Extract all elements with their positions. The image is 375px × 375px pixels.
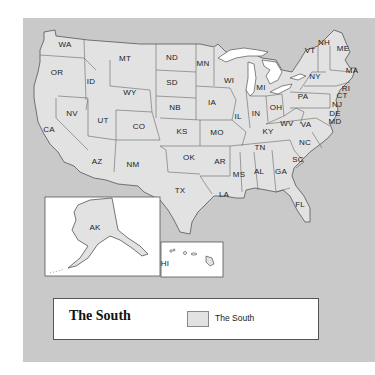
- state-label-nc: NC: [299, 138, 311, 147]
- state-label-vt: VT: [305, 46, 316, 55]
- state-label-sc: SC: [292, 155, 304, 164]
- state-label-wv: WV: [280, 119, 293, 128]
- state-label-ny: NY: [309, 72, 321, 81]
- state-label-va: VA: [301, 120, 311, 129]
- state-label-ks: KS: [176, 127, 187, 136]
- state-label-mn: MN: [197, 59, 210, 68]
- state-label-mo: MO: [210, 128, 223, 137]
- state-label-ms: MS: [233, 170, 245, 179]
- state-label-mi: MI: [256, 83, 265, 92]
- state-label-id: ID: [87, 77, 95, 86]
- state-label-me: ME: [337, 44, 349, 53]
- state-label-hi: HI: [161, 259, 169, 268]
- state-label-tx: TX: [175, 186, 186, 195]
- state-label-al: AL: [254, 167, 264, 176]
- state-label-ma: MA: [346, 66, 358, 75]
- legend-title: The South: [69, 308, 131, 324]
- state-label-nm: NM: [127, 160, 140, 169]
- state-label-ar: AR: [214, 157, 226, 166]
- state-label-ia: IA: [208, 98, 216, 107]
- state-label-ky: KY: [262, 127, 273, 136]
- state-label-wy: WY: [123, 88, 136, 97]
- state-label-la: LA: [219, 190, 229, 199]
- state-label-sd: SD: [166, 78, 178, 87]
- hawaii-inset-frame: [161, 242, 223, 277]
- state-label-fl: FL: [295, 200, 305, 209]
- state-label-tn: TN: [254, 143, 265, 152]
- legend-swatch: [187, 311, 209, 327]
- state-label-nh: NH: [318, 38, 330, 47]
- state-label-az: AZ: [92, 157, 103, 166]
- state-label-nd: ND: [166, 53, 178, 62]
- state-label-in: IN: [252, 109, 260, 118]
- state-label-mt: MT: [119, 54, 131, 63]
- state-label-wa: WA: [59, 40, 72, 49]
- state-label-md: MD: [329, 117, 342, 126]
- state-label-co: CO: [133, 122, 145, 131]
- state-label-oh: OH: [270, 103, 282, 112]
- state-label-or: OR: [51, 68, 63, 77]
- state-label-ut: UT: [97, 116, 108, 125]
- state-label-nb: NB: [169, 103, 181, 112]
- state-label-ak: AK: [89, 223, 100, 232]
- state-label-ok: OK: [183, 153, 195, 162]
- legend-item-label: The South: [215, 313, 254, 323]
- state-label-pa: PA: [298, 92, 308, 101]
- state-label-wi: WI: [224, 76, 234, 85]
- state-label-nv: NV: [66, 109, 78, 118]
- state-label-ca: CA: [43, 125, 55, 134]
- state-label-il: IL: [234, 112, 241, 121]
- state-label-ga: GA: [275, 167, 287, 176]
- state-label-ct: CT: [336, 91, 347, 100]
- legend: The South The South: [53, 298, 319, 340]
- state-label-nj: NJ: [332, 100, 342, 109]
